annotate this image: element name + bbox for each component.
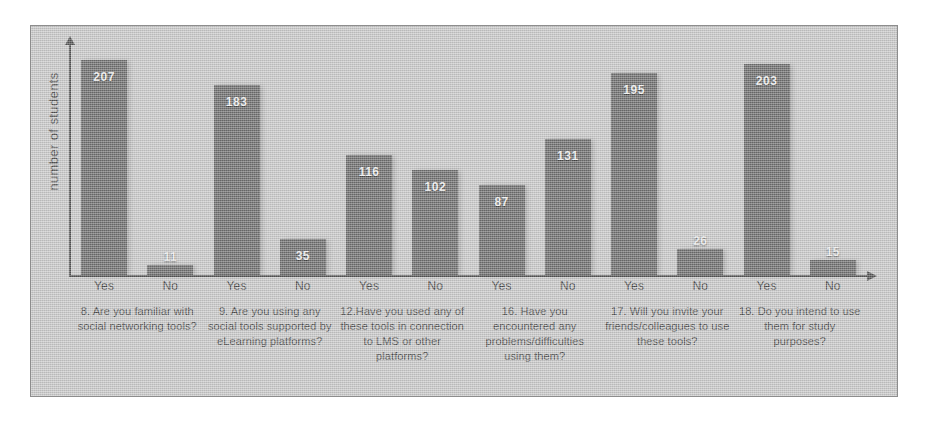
tick-group: YesNo [734,279,867,293]
x-tick-label: Yes [611,279,657,293]
x-tick-label: No [545,279,591,293]
x-tick-label: Yes [744,279,790,293]
category-caption: 9. Are you using any social tools suppor… [204,304,337,364]
x-tick-label: Yes [81,279,127,293]
tick-group: YesNo [204,279,337,293]
chart-figure: number of students 207111833511610287131… [30,25,898,397]
bar-slot: 15 [810,36,856,276]
bar-group: 19526 [601,36,734,276]
bar[interactable]: 15 [810,260,856,276]
bar-slot: 203 [744,36,790,276]
category-caption: 12.Have you used any of these tools in c… [336,304,469,364]
y-axis-label: number of students [46,32,61,232]
bar-slot: 87 [479,36,525,276]
bar-group: 20711 [71,36,204,276]
category-caption: 17. Will you invite your friends/colleag… [601,304,734,364]
bar[interactable]: 102 [412,170,458,276]
bar-value-label: 35 [280,249,326,263]
bar-value-label: 26 [677,234,723,248]
bar-group: 20315 [734,36,867,276]
bar[interactable]: 26 [677,249,723,276]
category-caption: 8. Are you familiar with social networki… [71,304,204,364]
tick-group: YesNo [336,279,469,293]
bar-slot: 207 [81,36,127,276]
bar[interactable]: 35 [280,239,326,276]
tick-group: YesNo [601,279,734,293]
x-tick-label: No [810,279,856,293]
tick-group: YesNo [469,279,602,293]
x-tick-label: No [147,279,193,293]
y-axis-line [69,44,71,276]
bar[interactable]: 207 [81,60,127,276]
bar[interactable]: 183 [214,85,260,276]
tick-group: YesNo [71,279,204,293]
bar-slot: 183 [214,36,260,276]
bar[interactable]: 131 [545,139,591,276]
bar-group: 116102 [336,36,469,276]
bar[interactable]: 203 [744,64,790,276]
x-axis-arrow-icon [867,271,877,281]
bar[interactable]: 87 [479,185,525,276]
x-axis-category-captions: 8. Are you familiar with social networki… [71,304,866,364]
bar-value-label: 131 [545,149,591,163]
bar-value-label: 87 [479,195,525,209]
bar-value-label: 116 [346,165,392,179]
bar-slot: 26 [677,36,723,276]
bar-slot: 131 [545,36,591,276]
bar-slot: 102 [412,36,458,276]
x-tick-label: Yes [479,279,525,293]
bar-slot: 11 [147,36,193,276]
bar-value-label: 195 [611,83,657,97]
bar-group: 87131 [469,36,602,276]
bar-value-label: 203 [744,74,790,88]
bar[interactable]: 195 [611,73,657,276]
x-tick-label: No [280,279,326,293]
y-axis-arrow-icon [65,36,75,45]
x-tick-label: No [412,279,458,293]
x-tick-label: Yes [214,279,260,293]
plot-area: number of students 207111833511610287131… [31,26,899,398]
bar-value-label: 11 [147,250,193,264]
bars-container: 2071118335116102871311952620315 [71,36,866,276]
bar-value-label: 183 [214,95,260,109]
bar-group: 18335 [204,36,337,276]
bar-value-label: 207 [81,70,127,84]
category-caption: 18. Do you intend to use them for study … [734,304,867,364]
x-axis-line [69,275,869,277]
category-caption: 16. Have you encountered any problems/di… [469,304,602,364]
bar-slot: 116 [346,36,392,276]
bar[interactable]: 116 [346,155,392,276]
x-axis-tick-labels: YesNoYesNoYesNoYesNoYesNoYesNo [71,279,866,293]
x-tick-label: Yes [346,279,392,293]
bar-value-label: 15 [810,245,856,259]
bar-value-label: 102 [412,180,458,194]
bar-slot: 195 [611,36,657,276]
bar-slot: 35 [280,36,326,276]
x-tick-label: No [677,279,723,293]
